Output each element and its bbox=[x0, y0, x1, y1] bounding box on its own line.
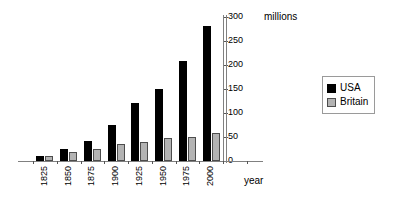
bar-group bbox=[108, 17, 125, 161]
x-tick-label-1825: 1825 bbox=[40, 166, 49, 186]
bar-group bbox=[84, 17, 101, 161]
x-tick-mark bbox=[152, 161, 153, 164]
x-axis-title: year bbox=[244, 176, 263, 186]
y-axis-right-spine-outer bbox=[226, 15, 227, 163]
x-tick-mark bbox=[81, 161, 82, 164]
bar-britain-1950 bbox=[164, 138, 172, 161]
x-tick-label-1975: 1975 bbox=[182, 166, 191, 186]
bar-group bbox=[155, 17, 172, 161]
bar-chart: 050100150200250300 182518501875190019251… bbox=[0, 0, 400, 206]
bar-group bbox=[36, 17, 53, 161]
plot-area bbox=[33, 17, 223, 161]
x-tick-label-1850: 1850 bbox=[64, 166, 73, 186]
legend-item-britain: Britain bbox=[327, 95, 368, 109]
x-tick-mark bbox=[33, 161, 34, 164]
legend-label: USA bbox=[340, 83, 361, 93]
bar-group bbox=[179, 17, 196, 161]
bar-britain-2000 bbox=[212, 133, 220, 161]
x-axis-baseline bbox=[18, 161, 263, 162]
y-tick-label: 50 bbox=[228, 132, 238, 141]
y-tick-label: 100 bbox=[228, 108, 243, 117]
bar-britain-1850 bbox=[69, 152, 77, 161]
bar-usa-1850 bbox=[60, 149, 68, 161]
bar-usa-1975 bbox=[179, 61, 187, 161]
x-tick-mark bbox=[128, 161, 129, 164]
x-tick-label-2000: 2000 bbox=[206, 166, 215, 186]
legend-label: Britain bbox=[340, 97, 368, 107]
bar-britain-1825 bbox=[45, 156, 53, 161]
y-axis-right-spine-inner bbox=[223, 15, 224, 163]
x-tick-mark bbox=[247, 161, 248, 164]
y-tick-label: 250 bbox=[228, 36, 243, 45]
x-tick-mark bbox=[104, 161, 105, 164]
bar-britain-1975 bbox=[188, 137, 196, 161]
gray-square-icon bbox=[327, 98, 336, 107]
bar-group bbox=[60, 17, 77, 161]
x-tick-mark bbox=[57, 161, 58, 164]
x-tick-label-1900: 1900 bbox=[111, 166, 120, 186]
bar-britain-1875 bbox=[93, 149, 101, 161]
x-tick-label-1950: 1950 bbox=[159, 166, 168, 186]
bar-usa-1825 bbox=[36, 156, 44, 161]
y-tick-label: 150 bbox=[228, 84, 243, 93]
bar-usa-1900 bbox=[108, 125, 116, 161]
x-tick-mark bbox=[223, 161, 224, 164]
bar-britain-1925 bbox=[140, 142, 148, 161]
bar-group bbox=[131, 17, 148, 161]
x-tick-mark bbox=[176, 161, 177, 164]
black-square-icon bbox=[327, 84, 336, 93]
y-tick-label: 300 bbox=[228, 12, 243, 21]
bar-usa-1950 bbox=[155, 89, 163, 161]
bar-usa-2000 bbox=[203, 26, 211, 161]
legend-item-usa: USA bbox=[327, 81, 368, 95]
x-tick-label-1875: 1875 bbox=[87, 166, 96, 186]
bar-group bbox=[203, 17, 220, 161]
bar-britain-1900 bbox=[117, 144, 125, 161]
y-tick-label: 200 bbox=[228, 60, 243, 69]
bar-usa-1925 bbox=[131, 103, 139, 161]
legend: USABritain bbox=[322, 76, 375, 114]
x-tick-label-1925: 1925 bbox=[135, 166, 144, 186]
y-axis-title: millions bbox=[264, 12, 297, 22]
x-tick-mark bbox=[199, 161, 200, 164]
bar-usa-1875 bbox=[84, 141, 92, 161]
